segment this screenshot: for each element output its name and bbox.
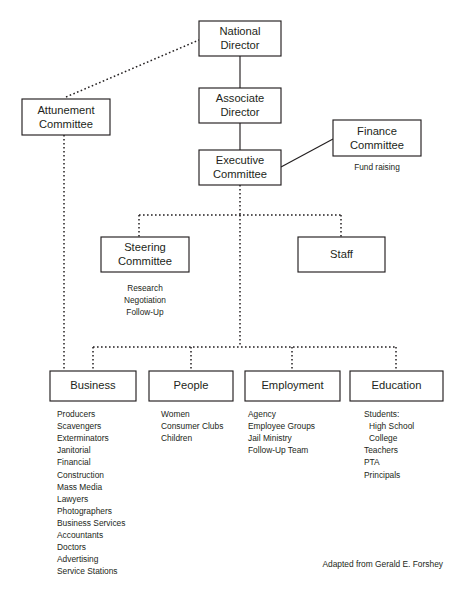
list-item-business-4: Financial [57, 457, 91, 467]
credit-text: Adapted from Gerald E. Forshey [322, 559, 443, 569]
box-people[interactable]: People [149, 371, 233, 401]
list-item-business-5: Construction [57, 470, 104, 480]
list-item-employment-1: Employee Groups [248, 421, 315, 431]
box-employment[interactable]: Employment [245, 371, 340, 401]
box-business[interactable]: Business [50, 371, 136, 401]
connector-executive-to-finance [281, 139, 333, 167]
box-national-director[interactable]: National Director [199, 21, 281, 56]
employment-label: Employment [261, 379, 324, 391]
box-executive-committee[interactable]: Executive Committee [199, 150, 281, 185]
executive-committee-label-line1: Executive [216, 154, 265, 166]
business-label: Business [70, 379, 116, 391]
connector-attunement-to-national [66, 40, 199, 97]
list-employment: AgencyEmployee GroupsJail MinistryFollow… [248, 409, 315, 455]
list-item-people-2: Children [161, 433, 193, 443]
steering-committee-label-line1: Steering [124, 241, 166, 253]
people-label: People [174, 379, 209, 391]
list-item-people-1: Consumer Clubs [161, 421, 223, 431]
list-item-business-0: Producers [57, 409, 95, 419]
associate-director-label-line1: Associate [216, 92, 265, 104]
list-item-business-3: Janitorial [57, 445, 91, 455]
list-item-employment-2: Jail Ministry [248, 433, 293, 443]
box-steering-committee[interactable]: Steering Committee [101, 237, 189, 272]
associate-director-label-line2: Director [220, 106, 259, 118]
list-item-business-12: Advertising [57, 554, 99, 564]
finance-caption: Fund raising [354, 162, 400, 172]
list-item-education-0: Students: [364, 409, 399, 419]
list-people: WomenConsumer ClubsChildren [161, 409, 223, 443]
list-item-business-13: Service Stations [57, 566, 118, 576]
org-chart-diagram: National Director Associate Director Exe… [0, 0, 458, 596]
list-item-people-0: Women [161, 409, 190, 419]
box-staff[interactable]: Staff [298, 237, 385, 272]
list-item-business-8: Photographers [57, 506, 112, 516]
list-item-business-11: Doctors [57, 542, 86, 552]
box-education[interactable]: Education [350, 371, 443, 401]
list-item-education-1: High School [369, 421, 414, 431]
list-item-education-4: PTA [364, 457, 380, 467]
list-item-business-2: Exterminators [57, 433, 109, 443]
list-item-business-6: Mass Media [57, 482, 102, 492]
attunement-committee-label-line1: Attunement [37, 104, 95, 116]
list-education: Students:High SchoolCollegeTeachersPTAPr… [364, 409, 414, 480]
staff-label: Staff [330, 248, 354, 260]
list-item-business-1: Scavengers [57, 421, 101, 431]
finance-committee-label-line1: Finance [357, 125, 397, 137]
steering-caption-1: Negotiation [124, 295, 166, 305]
list-item-education-3: Teachers [364, 445, 398, 455]
list-item-business-10: Accountants [57, 530, 103, 540]
executive-committee-label-line2: Committee [213, 168, 267, 180]
list-item-business-9: Business Services [57, 518, 125, 528]
org-chart-canvas: National Director Associate Director Exe… [0, 0, 458, 596]
steering-caption-0: Research [127, 283, 163, 293]
national-director-label-line2: Director [220, 39, 259, 51]
national-director-label-line1: National [219, 25, 260, 37]
list-item-education-2: College [369, 433, 398, 443]
list-item-business-7: Lawyers [57, 494, 88, 504]
box-finance-committee[interactable]: Finance Committee [333, 120, 421, 156]
attunement-committee-label-line2: Committee [39, 118, 93, 130]
education-label: Education [372, 379, 422, 391]
list-item-education-5: Principals [364, 470, 400, 480]
steering-captions: Research Negotiation Follow-Up [124, 283, 166, 317]
box-attunement-committee[interactable]: Attunement Committee [22, 99, 110, 135]
list-item-employment-0: Agency [248, 409, 277, 419]
list-business: ProducersScavengersExterminatorsJanitori… [57, 409, 125, 576]
steering-committee-label-line2: Committee [118, 255, 172, 267]
box-associate-director[interactable]: Associate Director [199, 88, 281, 123]
steering-caption-2: Follow-Up [126, 307, 164, 317]
list-item-employment-3: Follow-Up Team [248, 445, 308, 455]
finance-committee-label-line2: Committee [350, 139, 404, 151]
